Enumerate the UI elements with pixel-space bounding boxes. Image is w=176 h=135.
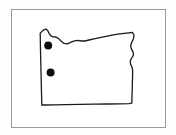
location-marker-1[interactable] [44, 42, 52, 50]
figure-container [0, 0, 176, 135]
oregon-map-svg [0, 0, 176, 135]
oregon-state-outline [40, 29, 134, 105]
location-marker-2[interactable] [47, 68, 55, 76]
